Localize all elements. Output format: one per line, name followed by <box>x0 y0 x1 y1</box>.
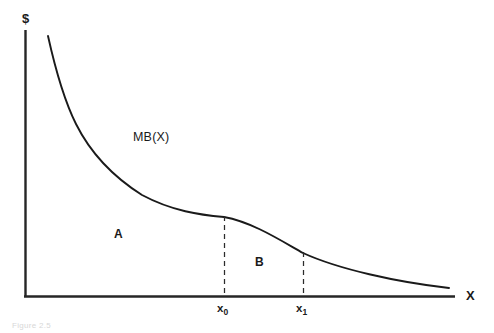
y-axis-label: $ <box>22 12 29 25</box>
x-axis-label: X <box>466 289 475 302</box>
region-a-label: A <box>114 228 123 240</box>
economics-figure: $ X MB(X) A B x0 x1 Figure 2.5 <box>0 0 494 333</box>
figure-canvas <box>0 0 494 333</box>
marginal-benefit-curve-label: MB(X) <box>133 131 169 144</box>
x1-tick-subscript: 1 <box>302 307 307 317</box>
x0-tick-label: x0 <box>217 303 228 317</box>
figure-caption: Figure 2.5 <box>12 322 51 330</box>
x0-tick-subscript: 0 <box>223 307 228 317</box>
x1-tick-label: x1 <box>296 303 307 317</box>
region-b-label: B <box>255 256 264 268</box>
marginal-benefit-curve <box>48 36 449 288</box>
